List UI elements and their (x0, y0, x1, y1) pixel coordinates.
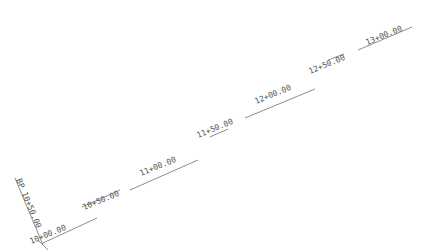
bp-station-label: BP 10+50.00 (14, 177, 43, 229)
station-label: 13+00.00 (364, 24, 403, 47)
station-label: 12+50.00 (307, 53, 346, 76)
station-label: 11+50.00 (195, 117, 234, 140)
alignment-drawing: BP 10+50.00 10+00.00 10+50.00 11+00.00 1… (0, 0, 427, 250)
station-label: 12+00.00 (253, 83, 292, 106)
station-label: 10+50.00 (81, 189, 120, 212)
cad-drawing-canvas: BP 10+50.00 10+00.00 10+50.00 11+00.00 1… (0, 0, 427, 250)
station-label: 11+00.00 (138, 155, 177, 178)
